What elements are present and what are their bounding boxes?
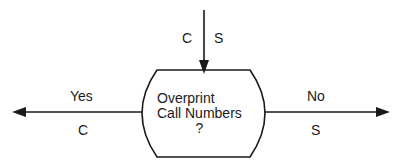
decision-line-1: Overprint <box>157 91 242 106</box>
flowchart-canvas <box>0 0 402 166</box>
incoming-arrowhead-icon <box>199 60 209 74</box>
no-arrowhead-icon <box>376 107 390 117</box>
incoming-label-left: C <box>182 30 192 46</box>
yes-arrowhead-icon <box>12 107 26 117</box>
decision-text: Overprint Call Numbers ? <box>157 91 242 136</box>
yes-branch-label: Yes <box>70 88 93 104</box>
no-branch-sublabel: S <box>311 122 320 138</box>
decision-line-2: Call Numbers <box>157 106 242 121</box>
incoming-label-right: S <box>214 30 223 46</box>
decision-line-3: ? <box>157 121 242 136</box>
no-branch-label: No <box>307 88 325 104</box>
yes-branch-sublabel: C <box>78 122 88 138</box>
